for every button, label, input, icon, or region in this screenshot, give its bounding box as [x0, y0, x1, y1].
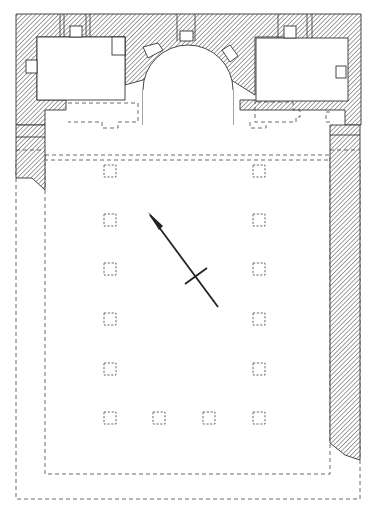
floor-plan — [0, 0, 376, 511]
column-base-left-3 — [104, 263, 116, 275]
column-base-left-2 — [104, 214, 116, 226]
column-base-left-1 — [104, 165, 116, 177]
column-base-right-6 — [253, 412, 265, 424]
left-chamber-niche-top — [70, 26, 82, 37]
left-annex-outline — [68, 103, 138, 128]
outer-foundation-outline — [16, 160, 360, 499]
column-base-left-5 — [104, 363, 116, 375]
left-chamber-niche-side — [26, 60, 37, 73]
right-chamber-niche-top — [284, 26, 296, 38]
left-wall — [16, 125, 45, 190]
column-base-middle-1 — [153, 412, 165, 424]
apse-floor — [143, 90, 233, 140]
column-base-right-1 — [253, 165, 265, 177]
column-base-left-6 — [104, 412, 116, 424]
column-bases — [104, 165, 265, 424]
column-base-right-4 — [253, 313, 265, 325]
apse-niche-top — [180, 31, 193, 41]
column-base-right-3 — [253, 263, 265, 275]
column-base-middle-2 — [203, 412, 215, 424]
column-base-right-5 — [253, 363, 265, 375]
right-chamber-niche-side — [336, 66, 346, 78]
right-wall — [330, 125, 360, 460]
column-base-right-2 — [253, 214, 265, 226]
right-wall-notch — [326, 112, 330, 122]
north-arrow — [148, 212, 218, 307]
north-arrow-head — [148, 212, 163, 230]
north-arrow-crossbar — [185, 268, 207, 284]
nave-outline — [45, 155, 330, 474]
column-base-left-4 — [104, 313, 116, 325]
right-chamber — [256, 38, 348, 101]
left-chamber-niche-right — [112, 37, 125, 55]
